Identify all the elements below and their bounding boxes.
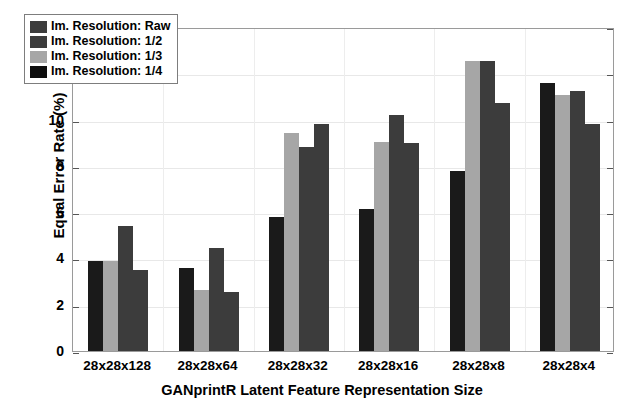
legend-swatch [30,36,47,48]
y-axis-tick-label: 10 [24,113,64,127]
legend-item: Im. Resolution: 1/3 [30,49,170,64]
bar [540,83,555,351]
legend-item: Im. Resolution: 1/4 [30,64,170,79]
x-axis-title: GANprintR Latent Feature Representation … [0,382,644,398]
legend-label: Im. Resolution: 1/3 [51,50,162,63]
bar-chart-figure: Equal Error Rate (%) 02468101214 28x28x1… [0,0,644,417]
legend-swatch [30,51,47,63]
y-axis-tick-right [607,353,613,354]
legend-label: Im. Resolution: 1/4 [51,65,162,78]
bar [555,95,570,351]
bar [570,91,585,351]
legend-swatch [30,66,47,78]
x-axis-tick-label: 28x28x4 [504,358,634,373]
chart-legend: Im. Resolution: RawIm. Resolution: 1/2Im… [24,14,178,84]
y-axis-tick-label: 0 [24,344,64,358]
bar [585,124,600,351]
legend-swatch [30,21,47,33]
y-axis-tick-label: 8 [24,159,64,173]
legend-item: Im. Resolution: 1/2 [30,34,170,49]
y-axis-tick-label: 6 [24,205,64,219]
legend-label: Im. Resolution: 1/2 [51,35,162,48]
y-axis-tick-label: 2 [24,298,64,312]
legend-label: Im. Resolution: Raw [51,20,170,33]
y-axis-tick-label: 4 [24,251,64,265]
y-axis-tick [73,353,79,354]
legend-item: Im. Resolution: Raw [30,19,170,34]
